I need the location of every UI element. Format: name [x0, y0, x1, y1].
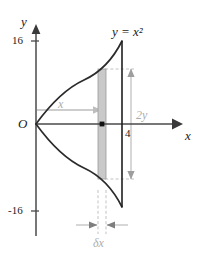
y-axis-label: y [21, 14, 27, 30]
x-distance-label: x [58, 97, 63, 112]
y-tick-label-16: 16 [12, 34, 23, 46]
origin-label: O [18, 116, 27, 132]
x-axis-label: x [185, 128, 191, 144]
figure-container: y x O 16 -16 4 y = x² x 2y δx [0, 0, 202, 260]
height-arrowhead-up-icon [127, 69, 134, 78]
axes-group [31, 24, 183, 236]
curve-equation-label: y = x² [112, 24, 143, 40]
parabola-lower-branch [36, 124, 122, 207]
width-arrowhead-right-icon [89, 221, 98, 228]
height-arrowhead-down-icon [127, 171, 134, 180]
width-arrowhead-left-icon [107, 221, 116, 228]
x-value-label-4: 4 [125, 127, 131, 139]
y-axis-arrowhead-icon [32, 24, 41, 34]
strip-center-point [100, 122, 105, 127]
y-tick-label-minus-16: -16 [8, 204, 23, 216]
parabola-figure [0, 0, 202, 260]
parabola-upper-branch [36, 41, 122, 124]
width-dimension-guide [76, 190, 128, 234]
strip-width-label: δx [93, 236, 104, 251]
x-axis-arrowhead-icon [172, 119, 183, 130]
strip-height-label: 2y [136, 108, 147, 123]
